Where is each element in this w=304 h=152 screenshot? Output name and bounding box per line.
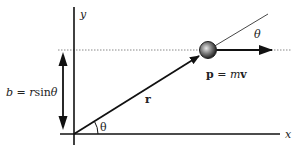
impact-arrow-down-head	[59, 116, 68, 130]
impact-parameter-label: b = rsinθ	[6, 86, 58, 99]
diagram-canvas: y x b = rsinθ r p = mv θ θ	[0, 0, 304, 152]
x-axis-label: x	[285, 128, 292, 141]
angle-label-particle: θ	[254, 28, 261, 41]
particle	[200, 42, 217, 59]
angle-label-origin: θ	[100, 121, 107, 134]
momentum-label: p = mv	[206, 68, 247, 81]
angle-arc-origin	[95, 122, 99, 135]
position-vector-r	[74, 56, 199, 134]
impact-arrow-up-head	[59, 52, 68, 66]
y-axis-label: y	[79, 8, 87, 21]
position-vector-label: r	[145, 93, 151, 106]
